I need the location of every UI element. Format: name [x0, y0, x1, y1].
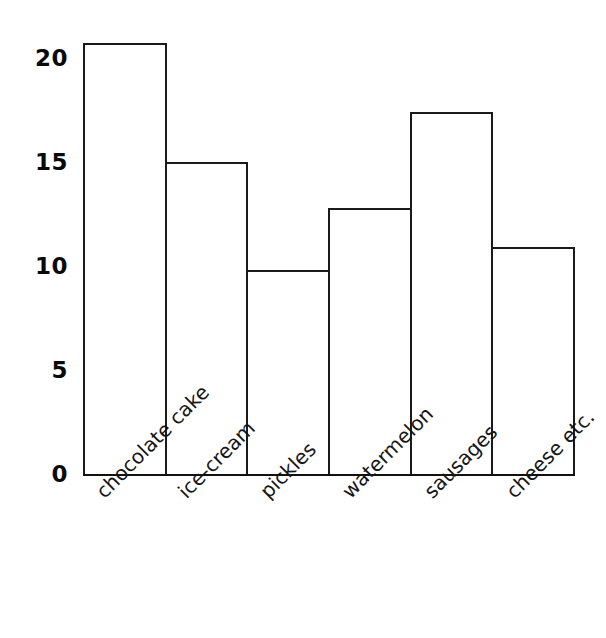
bar-pickles — [246, 270, 330, 474]
y-axis-tick-5: 5 — [14, 359, 68, 382]
y-axis-tick-labels: 20 15 10 5 0 — [14, 0, 68, 638]
x-label-slot-4: watermelon — [329, 476, 411, 638]
bar-series — [83, 43, 575, 474]
x-axis-category-labels: chocolate cake ice-cream pickles waterme… — [83, 476, 575, 638]
y-axis-tick-10: 10 — [14, 255, 68, 278]
x-label-slot-6: cheese etc. — [493, 476, 575, 638]
y-axis-tick-0: 0 — [14, 463, 68, 486]
x-label-slot-2: ice-cream — [165, 476, 247, 638]
x-label-slot-3: pickles — [247, 476, 329, 638]
y-axis-tick-20: 20 — [14, 47, 68, 70]
bar-chocolate-cake — [83, 43, 167, 474]
x-label-slot-5: sausages — [411, 476, 493, 638]
x-label-slot-1: chocolate cake — [83, 476, 165, 638]
bar-chart: 20 15 10 5 0 chocolate cake ice-cream pi… — [0, 0, 606, 638]
plot-area — [83, 43, 575, 474]
y-axis-tick-15: 15 — [14, 151, 68, 174]
